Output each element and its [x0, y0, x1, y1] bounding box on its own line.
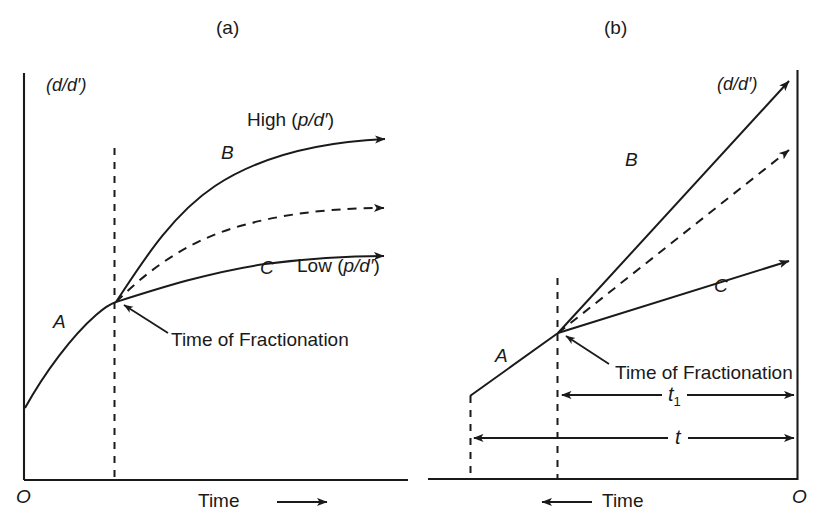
panel-a-curve-letter-a: A [53, 312, 66, 331]
panel-b-annotation: Time of Fractionation [615, 363, 793, 382]
panel-b-annotation-leader [566, 336, 609, 364]
t-symbol: t [675, 426, 681, 448]
figure-container: (a) (d/d′) High (p/d′) B C Low (p/d′) A … [0, 0, 823, 525]
panel-a-curve-b [116, 139, 385, 302]
panel-b-line-a [470, 333, 558, 396]
low-symbol: p/d′ [343, 255, 373, 276]
figure-drawing [0, 0, 823, 525]
panel-a-curve-a [25, 302, 116, 408]
panel-b-curve-letter-a: A [495, 346, 508, 365]
t1-subscript: 1 [674, 394, 681, 409]
high-suffix: ) [328, 109, 334, 130]
panel-a-axes [24, 73, 408, 480]
panel-a-series-label-low: Low (p/d′) [297, 256, 380, 275]
panel-a-annotation-leader [124, 305, 168, 333]
panel-a-origin-label: O [16, 487, 31, 506]
low-suffix: ) [373, 255, 379, 276]
panel-a-x-axis-label: Time [198, 491, 240, 510]
high-symbol: p/d′ [298, 109, 328, 130]
panel-a-curve-letter-c: C [260, 258, 274, 277]
panel-b-x-axis-label: Time [602, 491, 644, 510]
panel-a-curve-letter-b: B [221, 143, 234, 162]
panel-b-title: (b) [604, 18, 627, 37]
panel-a-y-axis-label: (d/d′) [46, 76, 86, 94]
panel-b-line-middle [558, 150, 789, 333]
panel-b-curve-letter-c: C [714, 276, 728, 295]
panel-b-origin-label: O [792, 487, 807, 506]
panel-b-y-axis-label: (d/d′) [717, 75, 757, 93]
panel-b-line-b [558, 81, 789, 333]
panel-a-title: (a) [216, 18, 239, 37]
panel-b-time-marker-t1: t1 [662, 384, 687, 408]
panel-b-time-marker-t: t [668, 427, 688, 447]
panel-a-series-label-high: High (p/d′) [247, 110, 334, 129]
panel-b-curve-letter-b: B [625, 150, 638, 169]
high-prefix: High ( [247, 109, 298, 130]
panel-a-annotation: Time of Fractionation [171, 330, 349, 349]
low-prefix: Low ( [297, 255, 343, 276]
panel-b-line-c [558, 261, 789, 333]
